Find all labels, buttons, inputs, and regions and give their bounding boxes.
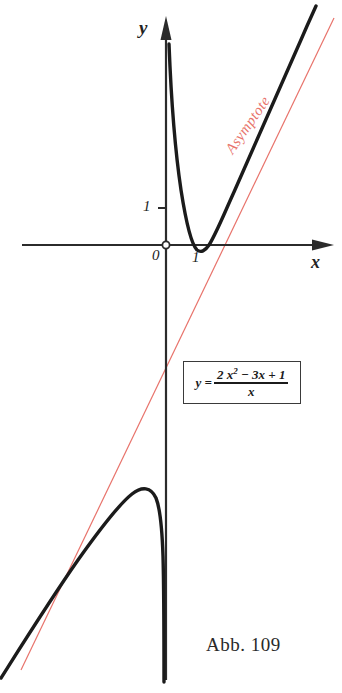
x-axis [22,240,334,251]
figure-caption: Abb. 109 [206,634,281,656]
origin-label: 0 [152,247,160,264]
formula-numerator-first: 2 x [217,367,233,382]
plot-canvas [0,0,342,693]
formula-expression: y = 2 x2 − 3x + 1 x [196,367,289,398]
x-axis-label: x [311,252,320,273]
formula-fraction: 2 x2 − 3x + 1 x [214,367,289,398]
formula-denominator: x [245,384,258,398]
y-axis-label: y [139,17,147,39]
origin-marker [162,241,169,248]
y-axis-tick-label: 1 [143,198,151,215]
formula-numerator: 2 x2 − 3x + 1 [214,367,289,382]
formula-box: y = 2 x2 − 3x + 1 x [183,361,301,404]
formula-numerator-rest: − 3x + 1 [238,367,286,382]
x-axis-tick-label: 1 [192,249,200,266]
curve-branch-negative [1,489,164,682]
figure-root: y x 1 0 1 Asymptote y = 2 x2 − 3x + 1 x … [0,0,342,693]
formula-lhs: y = [196,376,212,389]
